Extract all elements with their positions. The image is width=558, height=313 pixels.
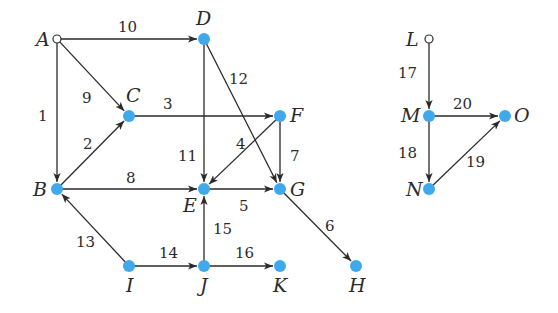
node-label: B xyxy=(32,178,47,200)
node-label: H xyxy=(348,274,366,296)
node-label: C xyxy=(126,84,141,106)
edge-label: 6 xyxy=(325,217,335,235)
edge-label: 12 xyxy=(229,70,248,88)
edge-label: 20 xyxy=(453,95,472,113)
edge-label: 1 xyxy=(38,107,48,125)
node-label: K xyxy=(272,274,289,296)
node-labels-layer: ADCFBEGIJKHLMON xyxy=(32,7,530,296)
node-label: N xyxy=(405,178,424,200)
edge-label: 8 xyxy=(126,169,136,187)
node-L xyxy=(425,35,433,43)
edge-A-C xyxy=(60,42,124,111)
node-label: D xyxy=(195,7,211,29)
edge-label: 18 xyxy=(398,144,417,162)
node-label: J xyxy=(196,274,209,296)
node-label: G xyxy=(290,178,305,200)
edge-label: 2 xyxy=(83,135,93,153)
graph-diagram: 1091231211478561314151617201819 ADCFBEGI… xyxy=(0,0,558,313)
node-A xyxy=(53,35,61,43)
node-H xyxy=(350,260,362,272)
edge-label: 14 xyxy=(159,244,178,262)
node-label: I xyxy=(125,274,134,296)
edge-N-O xyxy=(429,121,500,189)
edge-label: 7 xyxy=(290,147,300,165)
node-label: E xyxy=(182,194,197,216)
edge-label: 5 xyxy=(239,197,249,215)
node-E xyxy=(198,183,210,195)
edge-I-B xyxy=(62,194,129,266)
node-J xyxy=(198,260,210,272)
node-K xyxy=(274,260,286,272)
edge-label: 17 xyxy=(398,64,417,82)
node-label: L xyxy=(405,28,419,50)
edge-label: 16 xyxy=(235,244,254,262)
node-label: M xyxy=(400,104,421,126)
node-D xyxy=(198,33,210,45)
node-N xyxy=(423,183,435,195)
edge-label: 4 xyxy=(236,135,246,153)
node-B xyxy=(51,183,63,195)
edge-D-G xyxy=(204,39,277,183)
edge-B-C xyxy=(57,121,124,189)
node-label: O xyxy=(514,104,530,126)
node-label: F xyxy=(289,104,304,126)
edge-label: 10 xyxy=(118,18,137,36)
node-O xyxy=(499,110,511,122)
node-C xyxy=(123,110,135,122)
node-label: A xyxy=(34,28,50,50)
edge-label: 13 xyxy=(76,233,95,251)
edge-label: 3 xyxy=(163,95,173,113)
nodes-layer xyxy=(51,33,511,272)
edge-label: 15 xyxy=(213,220,232,238)
node-I xyxy=(123,260,135,272)
edge-label: 19 xyxy=(466,153,485,171)
edge-label: 9 xyxy=(82,89,92,107)
edge-label: 11 xyxy=(178,147,197,165)
node-M xyxy=(423,110,435,122)
node-F xyxy=(274,110,286,122)
edges-layer xyxy=(57,39,500,266)
node-G xyxy=(274,183,286,195)
